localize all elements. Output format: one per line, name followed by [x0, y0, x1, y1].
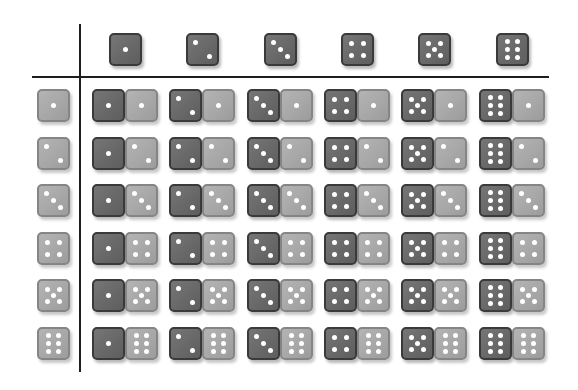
cell-first-die-4-2: [324, 137, 357, 170]
cell-second-die-3-2: [280, 137, 313, 170]
cell-first-die-3-4: [247, 232, 280, 265]
pip-dot: [271, 40, 276, 45]
pip-dot: [409, 299, 414, 304]
pip-dot: [455, 205, 460, 210]
pip-dot: [254, 144, 259, 149]
pip-dot: [498, 103, 503, 108]
pip-dot: [415, 246, 420, 251]
pip-dot: [533, 205, 538, 210]
pip-dot: [144, 349, 149, 354]
pip-dot: [454, 240, 459, 245]
pip-dot: [488, 103, 493, 108]
pip-dot: [268, 253, 273, 258]
pip-dot: [371, 293, 376, 298]
pip-dot: [365, 240, 370, 245]
pip-dot: [415, 198, 420, 203]
pip-dot: [268, 348, 273, 353]
pip-dot: [453, 341, 458, 346]
cell-first-die-1-4: [92, 232, 125, 265]
pip-dot: [261, 198, 266, 203]
pip-dot: [498, 111, 503, 116]
pip-dot: [332, 192, 337, 197]
cell-first-die-1-1: [92, 89, 125, 122]
cell-first-die-5-6: [401, 327, 434, 360]
pip-dot: [299, 349, 304, 354]
pip-dot: [498, 301, 503, 306]
pip-dot: [332, 287, 337, 292]
pip-dot: [176, 286, 181, 291]
cell-first-die-5-5: [401, 279, 434, 312]
cell-second-die-6-4: [512, 232, 545, 265]
pip-dot: [377, 240, 382, 245]
cell-first-die-3-1: [247, 89, 280, 122]
pip-dot: [57, 252, 62, 257]
column-header-die-5: [418, 33, 451, 66]
pip-dot: [300, 299, 305, 304]
pip-dot: [409, 204, 414, 209]
cell-second-die-1-4: [125, 232, 158, 265]
pip-dot: [190, 110, 195, 115]
cell-second-die-2-6: [202, 327, 235, 360]
pip-dot: [288, 299, 293, 304]
pip-dot: [443, 349, 448, 354]
pip-dot: [409, 145, 414, 150]
pip-dot: [139, 293, 144, 298]
cell-second-die-3-4: [280, 232, 313, 265]
pip-dot: [442, 299, 447, 304]
cell-second-die-5-3: [434, 184, 467, 217]
pip-dot: [146, 205, 151, 210]
pip-dot: [332, 204, 337, 209]
pip-dot: [344, 287, 349, 292]
cell-first-die-6-2: [479, 137, 512, 170]
pip-dot: [132, 144, 137, 149]
cell-second-die-5-2: [434, 137, 467, 170]
cell-second-die-4-6: [357, 327, 390, 360]
pip-dot: [299, 341, 304, 346]
pip-dot: [421, 287, 426, 292]
pip-dot: [438, 53, 443, 58]
pip-dot: [106, 103, 111, 108]
pip-dot: [349, 41, 354, 46]
pip-dot: [498, 206, 503, 211]
pip-dot: [56, 333, 61, 338]
cell-second-die-6-2: [512, 137, 545, 170]
pip-dot: [515, 55, 520, 60]
pip-dot: [344, 97, 349, 102]
pip-dot: [222, 287, 227, 292]
cell-second-die-1-2: [125, 137, 158, 170]
pip-dot: [521, 349, 526, 354]
pip-dot: [498, 95, 503, 100]
cell-first-die-6-6: [479, 327, 512, 360]
cell-first-die-2-1: [169, 89, 202, 122]
cell-first-die-2-2: [169, 137, 202, 170]
pip-dot: [299, 333, 304, 338]
pip-dot: [498, 198, 503, 203]
pip-dot: [56, 349, 61, 354]
pip-dot: [448, 293, 453, 298]
pip-dot: [526, 103, 531, 108]
pip-dot: [488, 293, 493, 298]
pip-dot: [409, 97, 414, 102]
pip-dot: [498, 151, 503, 156]
pip-dot: [421, 299, 426, 304]
cell-first-die-3-3: [247, 184, 280, 217]
pip-dot: [278, 47, 283, 52]
cell-second-die-4-3: [357, 184, 390, 217]
pip-dot: [261, 246, 266, 251]
pip-dot: [488, 111, 493, 116]
pip-dot: [531, 349, 536, 354]
pip-dot: [46, 333, 51, 338]
cell-first-die-5-1: [401, 89, 434, 122]
pip-dot: [421, 97, 426, 102]
cell-second-die-5-5: [434, 279, 467, 312]
column-header-die-3: [264, 33, 297, 66]
pip-dot: [442, 240, 447, 245]
pip-dot: [221, 333, 226, 338]
cell-second-die-3-5: [280, 279, 313, 312]
pip-dot: [134, 349, 139, 354]
pip-dot: [442, 252, 447, 257]
pip-dot: [46, 341, 51, 346]
pip-dot: [515, 47, 520, 52]
pip-dot: [44, 144, 49, 149]
cell-second-die-4-2: [357, 137, 390, 170]
